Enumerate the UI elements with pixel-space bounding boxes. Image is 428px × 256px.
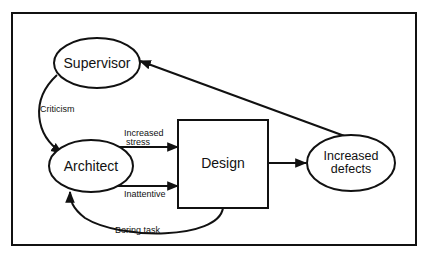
edge-label-boring-task: Boring task	[115, 225, 161, 235]
node-architect: Architect	[49, 140, 133, 192]
edge-criticism	[39, 75, 62, 153]
edge-label-stress-2: stress	[126, 137, 151, 147]
node-supervisor: Supervisor	[54, 38, 140, 88]
node-label-defects-2: defects	[331, 162, 371, 176]
node-design: Design	[178, 120, 268, 208]
node-label-defects-1: Increased	[324, 149, 379, 163]
edge-label-inattentive: Inattentive	[124, 189, 166, 199]
edge-label-criticism: Criticism	[40, 104, 75, 114]
node-label-design: Design	[201, 155, 245, 171]
node-increased-defects: Increased defects	[307, 135, 395, 191]
node-label-architect: Architect	[64, 158, 119, 174]
node-label-supervisor: Supervisor	[64, 55, 131, 71]
feedback-loop-diagram: Criticism Increased stress Inattentive B…	[0, 0, 428, 256]
